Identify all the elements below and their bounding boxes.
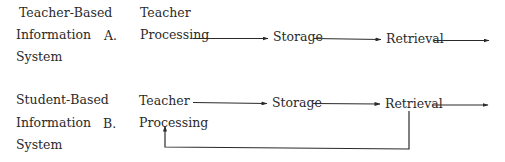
arrow-b-storage-to-retrieval bbox=[313, 104, 380, 105]
arrow-b-feedback-retrieval-to-processing bbox=[165, 111, 409, 149]
arrow-a-storage-to-retrieval bbox=[314, 39, 381, 40]
flow-connectors bbox=[0, 0, 505, 162]
arrow-b-teacher-to-storage bbox=[193, 103, 267, 104]
